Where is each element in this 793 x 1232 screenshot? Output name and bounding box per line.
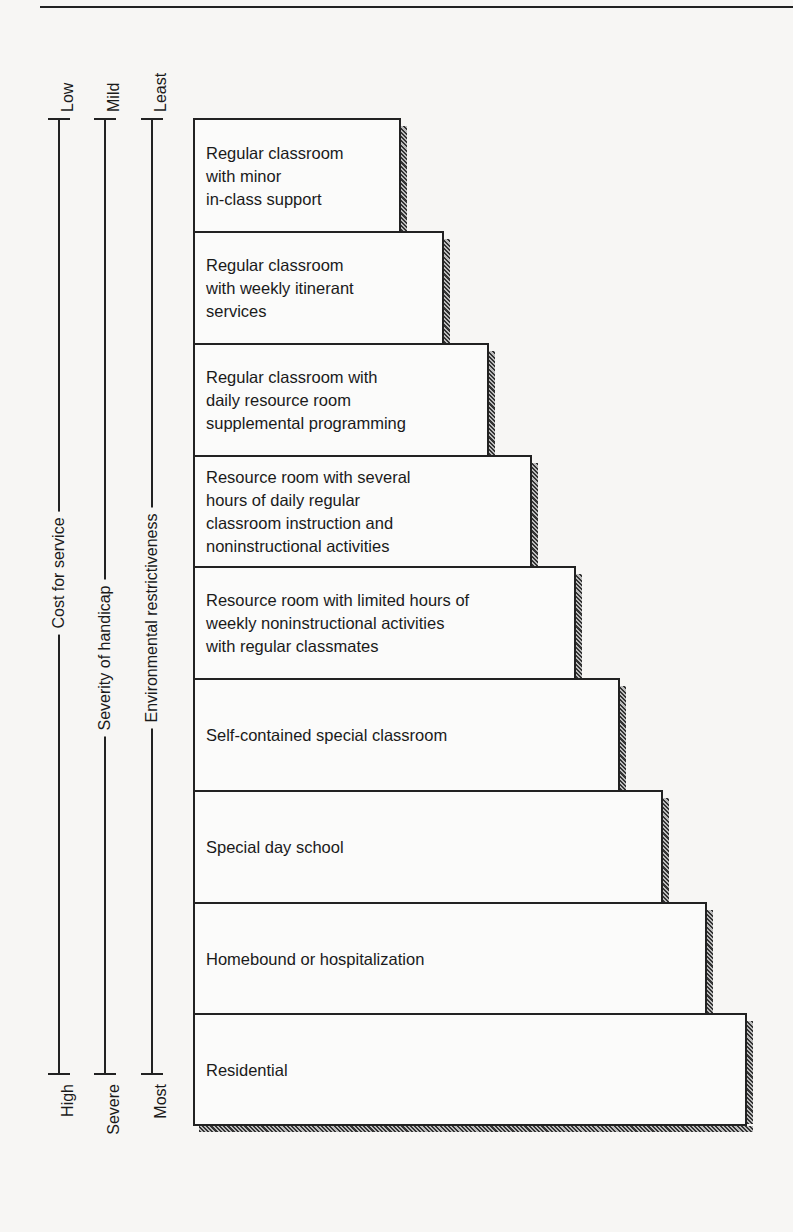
service-level-box: Self-contained special classroom [193,678,620,790]
service-level-box: Regular classroom with weekly itinerant … [193,231,444,343]
axis-bottom-label: Most [152,1084,170,1119]
axis-tick-top [94,118,116,120]
axis-tick-bottom [141,1073,163,1075]
service-level-label: Regular classroom with weekly itinerant … [206,254,434,323]
axis-title: Environmental restrictiveness [143,508,161,729]
axis-title: Severity of handicap [96,580,114,737]
axis-tick-bottom [94,1073,116,1075]
service-level-label: Resource room with several hours of dail… [206,466,522,558]
service-level-label: Residential [206,1058,737,1081]
axis-tick-top [48,118,70,120]
axis-bottom-label: Severe [105,1084,123,1135]
axis-tick-bottom [48,1073,70,1075]
service-level-box: Residential [193,1013,747,1126]
axis-top-label: Mild [105,83,123,112]
service-level-box: Homebound or hospitalization [193,902,707,1013]
axis-top-label: Low [59,83,77,112]
service-level-label: Homebound or hospitalization [206,947,697,970]
service-level-box: Special day school [193,790,663,902]
axis-title: Cost for service [50,511,68,634]
service-level-box: Resource room with several hours of dail… [193,455,532,566]
service-level-label: Regular classroom with minor in-class su… [206,141,391,210]
axis-top-label: Least [152,73,170,112]
axis-tick-top [141,118,163,120]
service-level-label: Special day school [206,836,653,859]
page-top-rule [40,6,793,8]
service-level-label: Resource room with limited hours of week… [206,589,566,658]
axis-bottom-label: High [59,1084,77,1117]
service-level-box: Regular classroom with minor in-class su… [193,118,401,231]
service-level-box: Regular classroom with daily resource ro… [193,343,489,455]
service-level-label: Self-contained special classroom [206,724,610,747]
service-level-box: Resource room with limited hours of week… [193,566,576,678]
service-level-label: Regular classroom with daily resource ro… [206,366,479,435]
